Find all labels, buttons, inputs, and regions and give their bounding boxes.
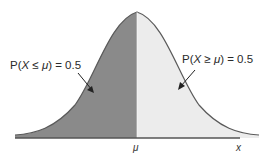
right-half-area <box>137 12 259 138</box>
normal-curve-diagram <box>0 0 276 162</box>
mean-label: μ <box>133 142 138 153</box>
right-probability-label: P(X ≥ μ) = 0.5 <box>182 53 253 65</box>
left-half-area <box>15 12 137 138</box>
x-axis-label: x <box>236 142 241 153</box>
left-probability-label: P(X ≤ μ) = 0.5 <box>10 59 81 71</box>
